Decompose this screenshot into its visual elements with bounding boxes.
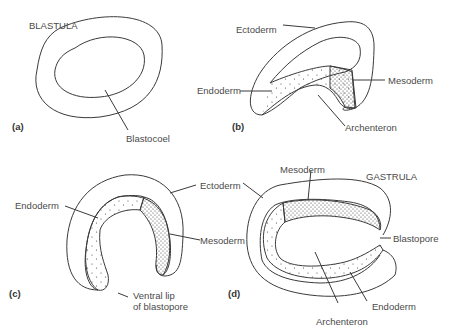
gastrula-figure <box>243 170 396 303</box>
mesoderm-label-b: Mesoderm <box>388 75 433 86</box>
blastula-stage-label: BLASTULA <box>29 20 78 31</box>
archenteron-label-b: Archenteron <box>345 122 397 133</box>
endoderm-label-d: Endoderm <box>372 301 416 312</box>
panel-c-letter: (c) <box>9 288 21 299</box>
archenteron-label-d: Archenteron <box>316 316 368 327</box>
blastula-figure <box>36 17 162 130</box>
ventral-lip-label-2: of blastopore <box>133 301 188 312</box>
mid-gastrula-figure <box>65 175 200 297</box>
mesoderm-label-c: Mesoderm <box>200 235 245 246</box>
panel-a-letter: (a) <box>12 121 24 132</box>
mesoderm-label-d: Mesoderm <box>280 164 325 175</box>
endoderm-label-c: Endoderm <box>15 200 59 211</box>
ectoderm-label-b: Ectoderm <box>236 24 277 35</box>
ventral-lip-label-1: Ventral lip <box>133 290 175 301</box>
panel-d-letter: (d) <box>228 288 240 299</box>
ectoderm-label-c: Ectoderm <box>200 180 241 191</box>
blastopore-label: Blastopore <box>393 233 438 244</box>
diagram-canvas <box>0 0 453 334</box>
gastrula-stage-label: GASTRULA <box>366 171 417 182</box>
panel-b-letter: (b) <box>232 121 244 132</box>
blastocoel-label: Blastocoel <box>126 133 170 144</box>
early-gastrula-figure <box>240 22 385 126</box>
endoderm-label-b: Endoderm <box>197 85 241 96</box>
